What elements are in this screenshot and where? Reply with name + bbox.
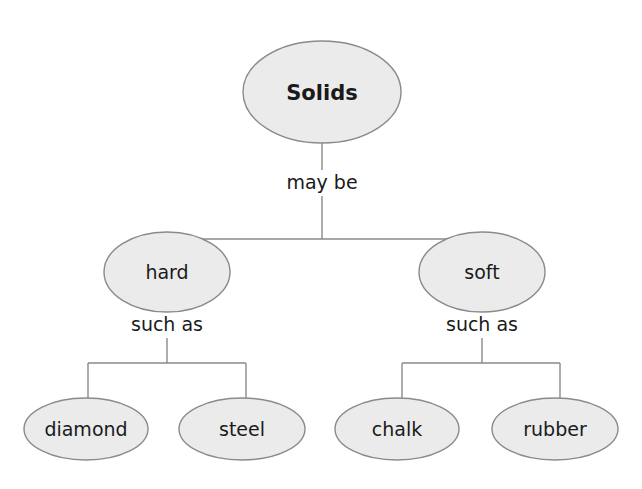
node-label: chalk	[372, 418, 422, 440]
edge-label-may-be: may be	[286, 170, 357, 196]
node-rubber: rubber	[492, 398, 618, 460]
edge-label-soft-such-as: such as	[445, 312, 519, 338]
node-diamond: diamond	[24, 398, 148, 460]
edge-label-text: such as	[131, 313, 203, 335]
node-hard: hard	[104, 232, 230, 312]
node-label: Solids	[286, 81, 357, 105]
node-chalk: chalk	[335, 398, 459, 460]
node-steel: steel	[179, 398, 305, 460]
node-label: hard	[145, 261, 188, 283]
edge-label-text: may be	[286, 171, 357, 193]
edge-label-text: such as	[446, 313, 518, 335]
node-label: steel	[219, 418, 265, 440]
node-soft: soft	[419, 232, 545, 312]
concept-map: may be such as such as Solids hard soft …	[0, 0, 642, 489]
node-solids: Solids	[243, 41, 401, 143]
node-label: diamond	[44, 418, 127, 440]
node-label: rubber	[523, 418, 587, 440]
node-label: soft	[464, 261, 499, 283]
edge-label-hard-such-as: such as	[130, 312, 204, 338]
